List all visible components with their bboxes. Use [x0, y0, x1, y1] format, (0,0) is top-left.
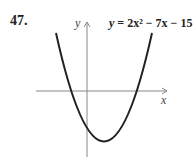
axes	[36, 22, 167, 157]
parabola-graph	[0, 0, 195, 168]
parabola-curve	[56, 33, 152, 142]
